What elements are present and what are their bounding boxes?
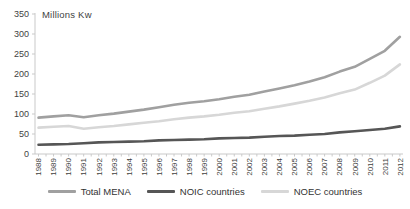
x-axis-label: 1996 bbox=[155, 157, 164, 175]
x-axis-label: 2003 bbox=[260, 157, 269, 175]
y-axis-label: 350 bbox=[14, 9, 29, 19]
series-line-noic-countries bbox=[39, 126, 400, 144]
x-axis-label: 2006 bbox=[305, 157, 314, 175]
x-axis-label: 2011 bbox=[381, 157, 390, 175]
x-axis-label: 1992 bbox=[95, 157, 104, 175]
x-axis-label: 2004 bbox=[275, 157, 284, 175]
x-axis-label: 2007 bbox=[320, 157, 329, 175]
x-axis-label: 1995 bbox=[140, 157, 149, 175]
series-line-total-mena bbox=[39, 37, 400, 118]
x-axis-label: 2010 bbox=[366, 157, 375, 175]
legend-item-total-mena: Total MENA bbox=[48, 186, 131, 197]
x-axis-label: 2002 bbox=[245, 157, 254, 175]
line-chart: 0501001502002503003501988198919901991199… bbox=[0, 0, 410, 209]
legend-item-noic-countries: NOIC countries bbox=[147, 186, 245, 197]
x-axis-label: 1999 bbox=[200, 157, 209, 175]
x-axis-label: 1993 bbox=[110, 157, 119, 175]
series-line-noec-countries bbox=[39, 64, 400, 128]
x-axis-label: 2008 bbox=[335, 157, 344, 175]
legend-item-noec-countries: NOEC countries bbox=[261, 186, 363, 197]
y-axis-label: 50 bbox=[19, 129, 29, 139]
x-axis-label: 2000 bbox=[215, 157, 224, 175]
chart-screenshot: 0501001502002503003501988198919901991199… bbox=[0, 0, 410, 209]
legend-label: NOEC countries bbox=[294, 186, 363, 197]
x-axis-label: 1990 bbox=[64, 157, 73, 175]
x-axis-label: 1997 bbox=[170, 157, 179, 175]
y-axis-label: 200 bbox=[14, 69, 29, 79]
chart-legend: Total MENANOIC countriesNOEC countries bbox=[0, 186, 410, 197]
legend-label: NOIC countries bbox=[180, 186, 245, 197]
x-axis-label: 1998 bbox=[185, 157, 194, 175]
y-axis-label: 0 bbox=[24, 149, 29, 159]
y-axis-label: 150 bbox=[14, 89, 29, 99]
x-axis-label: 2005 bbox=[290, 157, 299, 175]
y-axis-label: 300 bbox=[14, 29, 29, 39]
legend-swatch-noec-countries bbox=[261, 190, 289, 193]
x-axis-label: 2001 bbox=[230, 157, 239, 175]
x-axis-label: 1989 bbox=[49, 157, 58, 175]
y-axis-label: 100 bbox=[14, 109, 29, 119]
legend-label: Total MENA bbox=[81, 186, 131, 197]
y-axis-label: 250 bbox=[14, 49, 29, 59]
x-axis-label: 1991 bbox=[79, 157, 88, 175]
axis-units-label: Millions Kw bbox=[42, 9, 92, 20]
x-axis-label: 2012 bbox=[396, 157, 405, 175]
x-axis-label: 1994 bbox=[125, 157, 134, 175]
x-axis-label: 2009 bbox=[351, 157, 360, 175]
x-axis-label: 1988 bbox=[34, 157, 43, 175]
legend-swatch-noic-countries bbox=[147, 190, 175, 193]
legend-swatch-total-mena bbox=[48, 190, 76, 193]
